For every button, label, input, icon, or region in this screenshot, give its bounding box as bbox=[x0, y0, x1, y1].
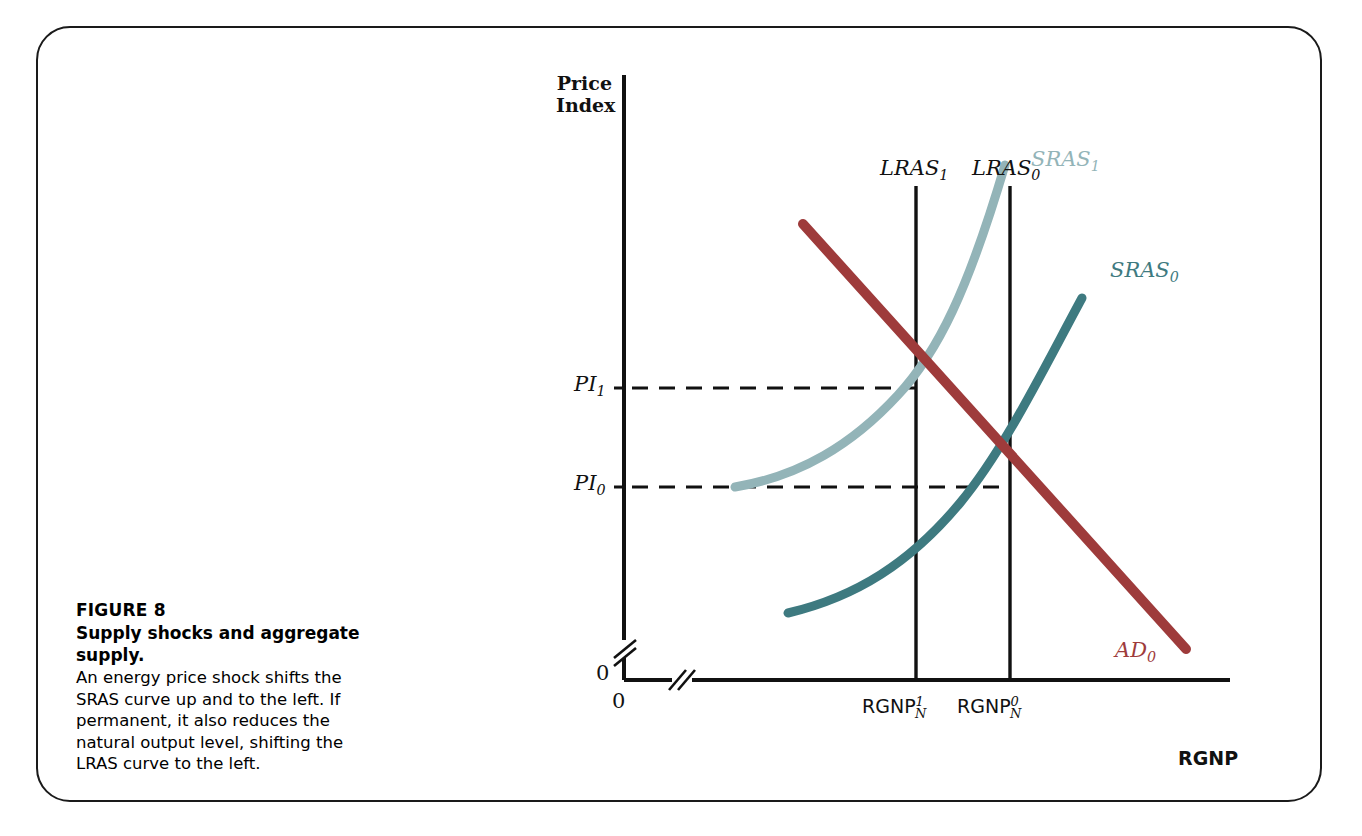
figure-number: FIGURE 8 bbox=[76, 600, 376, 622]
sras0-label-base: SRAS bbox=[1110, 258, 1170, 282]
y-axis-title-line2: Index bbox=[556, 94, 612, 116]
rgnp-n1-sub: N bbox=[915, 706, 926, 721]
pi1-sub: 1 bbox=[596, 383, 605, 399]
rgnp-n1-base: RGNP bbox=[862, 695, 916, 717]
lras1-label-sub: 1 bbox=[939, 167, 948, 183]
xtick-label-rgnp-n1: RGNP1N bbox=[862, 694, 926, 721]
pi1-base: PI bbox=[574, 372, 596, 396]
lras1-label: LRAS1 bbox=[880, 156, 948, 183]
sras1-label: SRAS1 bbox=[1031, 147, 1100, 174]
x-axis-title: RGNP bbox=[1178, 747, 1238, 769]
ad0-label: AD0 bbox=[1115, 638, 1156, 665]
rgnp-n0-base: RGNP bbox=[957, 695, 1011, 717]
origin-label-x: 0 bbox=[612, 689, 625, 713]
xtick-label-rgnp-n0: RGNP0N bbox=[957, 694, 1021, 721]
rgnp-n0-sub: N bbox=[1010, 706, 1021, 721]
y-axis-title: Price Index bbox=[556, 72, 612, 117]
pi0-sub: 0 bbox=[596, 482, 605, 498]
sras0-label-sub: 0 bbox=[1170, 269, 1179, 285]
ad0-label-sub: 0 bbox=[1147, 649, 1156, 665]
figure-caption: FIGURE 8 Supply shocks and aggregate sup… bbox=[76, 600, 376, 774]
ytick-label-pi1: PI1 bbox=[574, 372, 606, 399]
figure-description: An energy price shock shifts the SRAS cu… bbox=[76, 667, 376, 774]
sras0-label: SRAS0 bbox=[1110, 258, 1179, 285]
origin-label-y: 0 bbox=[596, 661, 609, 685]
lras0-label-base: LRAS bbox=[972, 156, 1031, 180]
sras1-label-sub: 1 bbox=[1091, 158, 1100, 174]
y-axis-title-line1: Price bbox=[556, 72, 612, 94]
figure-title: Supply shocks and aggregate supply. bbox=[76, 623, 376, 667]
ad0-label-base: AD bbox=[1115, 638, 1147, 662]
pi0-base: PI bbox=[574, 471, 596, 495]
lras1-label-base: LRAS bbox=[880, 156, 939, 180]
ytick-label-pi0: PI0 bbox=[574, 471, 606, 498]
sras1-label-base: SRAS bbox=[1031, 147, 1091, 171]
figure-page: Price Index RGNP 0 0 PI1 PI0 RGNP1N RGNP… bbox=[0, 0, 1362, 836]
